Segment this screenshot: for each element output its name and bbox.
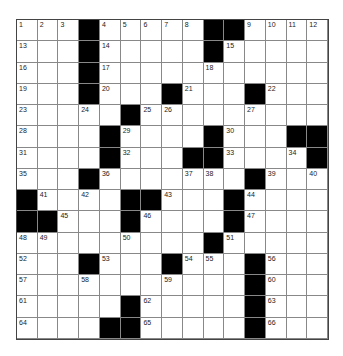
grid-cell[interactable] (224, 254, 245, 275)
grid-cell[interactable] (38, 105, 59, 126)
grid-cell[interactable]: 22 (266, 84, 287, 105)
grid-cell[interactable] (287, 169, 308, 190)
grid-cell[interactable] (100, 296, 121, 317)
grid-cell[interactable]: 66 (266, 318, 287, 339)
grid-cell[interactable]: 27 (245, 105, 266, 126)
grid-cell[interactable] (121, 41, 142, 62)
grid-cell[interactable] (38, 63, 59, 84)
grid-cell[interactable] (79, 148, 100, 169)
grid-cell[interactable]: 50 (121, 233, 142, 254)
grid-cell[interactable] (121, 169, 142, 190)
grid-cell[interactable] (183, 275, 204, 296)
grid-cell[interactable]: 30 (224, 126, 245, 147)
grid-cell[interactable] (307, 275, 328, 296)
grid-cell[interactable] (100, 275, 121, 296)
grid-cell[interactable]: 32 (121, 148, 142, 169)
grid-cell[interactable] (58, 41, 79, 62)
grid-cell[interactable]: 20 (100, 84, 121, 105)
grid-cell[interactable] (121, 84, 142, 105)
grid-cell[interactable]: 65 (141, 318, 162, 339)
grid-cell[interactable] (183, 126, 204, 147)
grid-cell[interactable]: 60 (266, 275, 287, 296)
grid-cell[interactable] (307, 318, 328, 339)
grid-cell[interactable] (307, 233, 328, 254)
grid-cell[interactable]: 39 (266, 169, 287, 190)
grid-cell[interactable] (183, 233, 204, 254)
grid-cell[interactable] (141, 233, 162, 254)
grid-cell[interactable]: 28 (17, 126, 38, 147)
grid-cell[interactable] (79, 233, 100, 254)
grid-cell[interactable] (245, 233, 266, 254)
grid-cell[interactable]: 6 (141, 20, 162, 41)
grid-cell[interactable] (162, 41, 183, 62)
grid-cell[interactable]: 53 (100, 254, 121, 275)
grid-cell[interactable]: 14 (100, 41, 121, 62)
grid-cell[interactable] (79, 318, 100, 339)
grid-cell[interactable] (204, 84, 225, 105)
grid-cell[interactable] (204, 275, 225, 296)
grid-cell[interactable] (162, 126, 183, 147)
grid-cell[interactable] (141, 169, 162, 190)
grid-cell[interactable] (141, 254, 162, 275)
grid-cell[interactable] (245, 148, 266, 169)
grid-cell[interactable]: 61 (17, 296, 38, 317)
grid-cell[interactable] (38, 318, 59, 339)
grid-cell[interactable] (58, 318, 79, 339)
grid-cell[interactable]: 48 (17, 233, 38, 254)
grid-cell[interactable]: 55 (204, 254, 225, 275)
grid-cell[interactable]: 34 (287, 148, 308, 169)
grid-cell[interactable] (141, 275, 162, 296)
grid-cell[interactable] (287, 190, 308, 211)
grid-cell[interactable] (121, 63, 142, 84)
grid-cell[interactable] (287, 211, 308, 232)
grid-cell[interactable] (266, 233, 287, 254)
grid-cell[interactable] (307, 105, 328, 126)
grid-cell[interactable] (58, 233, 79, 254)
grid-cell[interactable] (204, 318, 225, 339)
grid-cell[interactable]: 59 (162, 275, 183, 296)
grid-cell[interactable]: 26 (162, 105, 183, 126)
grid-cell[interactable] (38, 254, 59, 275)
grid-cell[interactable] (287, 84, 308, 105)
grid-cell[interactable] (58, 84, 79, 105)
grid-cell[interactable]: 16 (17, 63, 38, 84)
grid-cell[interactable] (287, 63, 308, 84)
grid-cell[interactable] (287, 318, 308, 339)
grid-cell[interactable] (266, 41, 287, 62)
grid-cell[interactable] (266, 105, 287, 126)
grid-cell[interactable] (266, 126, 287, 147)
grid-cell[interactable] (141, 148, 162, 169)
grid-cell[interactable]: 47 (245, 211, 266, 232)
grid-cell[interactable]: 56 (266, 254, 287, 275)
grid-cell[interactable]: 42 (79, 190, 100, 211)
grid-cell[interactable] (58, 105, 79, 126)
grid-cell[interactable] (287, 275, 308, 296)
grid-cell[interactable]: 40 (307, 169, 328, 190)
grid-cell[interactable]: 54 (183, 254, 204, 275)
grid-cell[interactable]: 44 (245, 190, 266, 211)
grid-cell[interactable]: 36 (100, 169, 121, 190)
grid-cell[interactable] (100, 190, 121, 211)
grid-cell[interactable] (183, 63, 204, 84)
grid-cell[interactable]: 7 (162, 20, 183, 41)
grid-cell[interactable] (287, 233, 308, 254)
grid-cell[interactable] (38, 169, 59, 190)
grid-cell[interactable] (307, 41, 328, 62)
grid-cell[interactable]: 24 (79, 105, 100, 126)
grid-cell[interactable] (245, 126, 266, 147)
grid-cell[interactable] (224, 296, 245, 317)
grid-cell[interactable]: 2 (38, 20, 59, 41)
grid-cell[interactable]: 25 (141, 105, 162, 126)
grid-cell[interactable]: 4 (100, 20, 121, 41)
grid-cell[interactable]: 62 (141, 296, 162, 317)
grid-cell[interactable] (79, 211, 100, 232)
grid-cell[interactable] (287, 254, 308, 275)
grid-cell[interactable] (141, 41, 162, 62)
grid-cell[interactable] (307, 63, 328, 84)
grid-cell[interactable]: 46 (141, 211, 162, 232)
grid-cell[interactable] (224, 63, 245, 84)
grid-cell[interactable] (204, 190, 225, 211)
grid-cell[interactable] (224, 169, 245, 190)
grid-cell[interactable]: 23 (17, 105, 38, 126)
grid-cell[interactable] (266, 148, 287, 169)
